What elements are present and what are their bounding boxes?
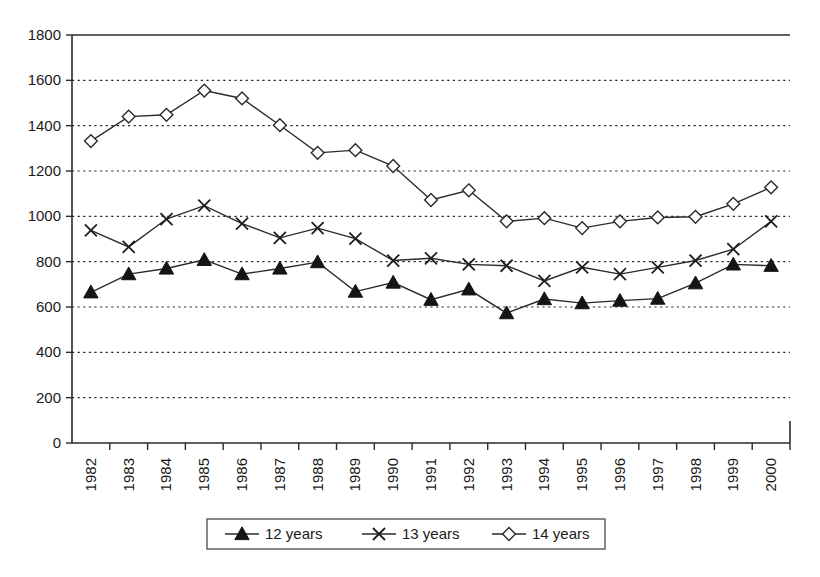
marker-filled-triangle	[310, 255, 324, 268]
marker-open-diamond	[651, 211, 664, 224]
legend-label: 12 years	[265, 525, 323, 542]
x-tick-label: 1986	[233, 458, 250, 491]
x-tick-label: 1996	[611, 458, 628, 491]
x-tick-label: 1998	[687, 458, 704, 491]
marker-x-cross	[312, 222, 324, 234]
x-tick-labels: 1982198319841985198619871988198919901991…	[82, 458, 779, 491]
marker-x-cross	[198, 200, 210, 212]
x-tick-label: 1999	[724, 458, 741, 491]
y-tick-label: 1000	[28, 207, 61, 224]
marker-x-cross	[576, 261, 588, 273]
marker-x-cross	[614, 268, 626, 280]
marker-x-cross	[85, 224, 97, 236]
y-tick-label: 400	[36, 343, 61, 360]
x-tick-label: 1988	[309, 458, 326, 491]
x-tick-label: 1984	[157, 458, 174, 491]
y-tick-label: 200	[36, 389, 61, 406]
series-group	[84, 84, 779, 319]
marker-open-diamond	[160, 108, 173, 121]
marker-filled-triangle	[651, 291, 665, 304]
y-axis	[72, 35, 790, 443]
x-tick-label: 1992	[460, 458, 477, 491]
grid-lines	[72, 80, 790, 397]
x-tick-label: 1987	[271, 458, 288, 491]
x-tick-label: 1994	[535, 458, 552, 491]
marker-x-cross	[160, 213, 172, 225]
marker-open-diamond	[122, 110, 135, 123]
marker-x-cross	[538, 275, 550, 287]
marker-filled-triangle	[688, 276, 702, 289]
marker-x-cross	[652, 261, 664, 273]
marker-x-cross	[123, 241, 135, 253]
marker-open-diamond	[576, 222, 589, 235]
marker-open-diamond	[311, 146, 324, 159]
marker-x-cross	[236, 218, 248, 230]
chart-container: 020040060080010001200140016001800 198219…	[0, 0, 820, 577]
marker-filled-triangle	[386, 275, 400, 288]
marker-open-diamond	[689, 210, 702, 223]
marker-x-cross	[274, 232, 286, 244]
marker-open-diamond	[84, 135, 97, 148]
marker-open-diamond	[273, 119, 286, 132]
y-tick-label: 800	[36, 253, 61, 270]
marker-open-diamond	[538, 212, 551, 225]
marker-filled-triangle	[197, 253, 211, 266]
x-tick-label: 1993	[498, 458, 515, 491]
series-12-years	[84, 253, 779, 319]
legend: 12 years13 years14 years	[207, 519, 605, 549]
marker-x-cross	[690, 255, 702, 267]
y-tick-label: 1400	[28, 117, 61, 134]
marker-open-diamond	[349, 144, 362, 157]
series-polyline	[91, 91, 771, 229]
y-tick-labels: 020040060080010001200140016001800	[28, 26, 61, 451]
legend-label: 13 years	[402, 525, 460, 542]
y-tick-label: 1800	[28, 26, 61, 43]
y-tick-label: 600	[36, 298, 61, 315]
marker-filled-triangle	[84, 285, 98, 298]
y-tick-label: 0	[53, 434, 61, 451]
x-tick-label: 1989	[346, 458, 363, 491]
legend-label: 14 years	[532, 525, 590, 542]
line-chart: 020040060080010001200140016001800 198219…	[0, 0, 820, 577]
x-tick-label: 1982	[82, 458, 99, 491]
x-tick-label: 1997	[649, 458, 666, 491]
x-tick-label: 1990	[384, 458, 401, 491]
x-tick-label: 1985	[195, 458, 212, 491]
x-tick-label: 2000	[762, 458, 779, 491]
marker-x-cross	[727, 243, 739, 255]
x-axis	[66, 35, 790, 450]
x-tick-label: 1995	[573, 458, 590, 491]
x-tick-label: 1991	[422, 458, 439, 491]
marker-filled-triangle	[462, 282, 476, 295]
marker-open-diamond	[198, 84, 211, 97]
marker-filled-triangle	[726, 257, 740, 270]
y-tick-label: 1200	[28, 162, 61, 179]
x-tick-label: 1983	[120, 458, 137, 491]
marker-x-cross	[349, 233, 361, 245]
marker-open-diamond	[765, 181, 778, 194]
marker-filled-triangle	[537, 292, 551, 305]
series-13-years	[85, 200, 777, 287]
marker-open-diamond	[727, 197, 740, 210]
y-tick-label: 1600	[28, 71, 61, 88]
marker-x-cross	[765, 215, 777, 227]
marker-open-diamond	[236, 92, 249, 105]
marker-filled-triangle	[499, 306, 513, 319]
